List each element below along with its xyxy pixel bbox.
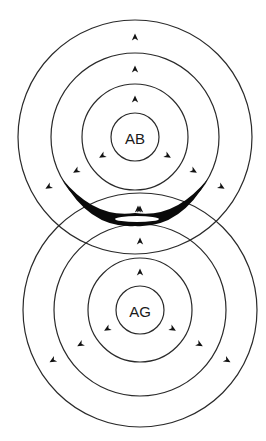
arrowhead-icon (132, 34, 138, 41)
arrowhead-icon (163, 152, 171, 158)
arrowhead-icon (132, 66, 138, 73)
arrowhead-icon (223, 356, 231, 362)
arrowhead-icon (99, 152, 107, 158)
arrowhead-icon (104, 325, 112, 331)
arrowhead-icon (45, 183, 53, 189)
arrowhead-icon (168, 325, 176, 331)
arrowhead-icon (195, 340, 203, 346)
arrowhead-icon (137, 238, 143, 245)
arrowhead-icon (132, 96, 138, 103)
concentric-ring-diagram: AB AG (0, 0, 266, 441)
arrowhead-icon (189, 167, 197, 173)
arrowhead-icon (217, 183, 225, 189)
arrowhead-icon (77, 340, 85, 346)
arrowhead-icon (73, 167, 81, 173)
contact-lens (115, 216, 159, 222)
arrowhead-icon (137, 269, 143, 276)
label-ag: AG (129, 303, 151, 320)
arrowhead-icon (50, 356, 58, 362)
label-ab: AB (125, 130, 145, 147)
